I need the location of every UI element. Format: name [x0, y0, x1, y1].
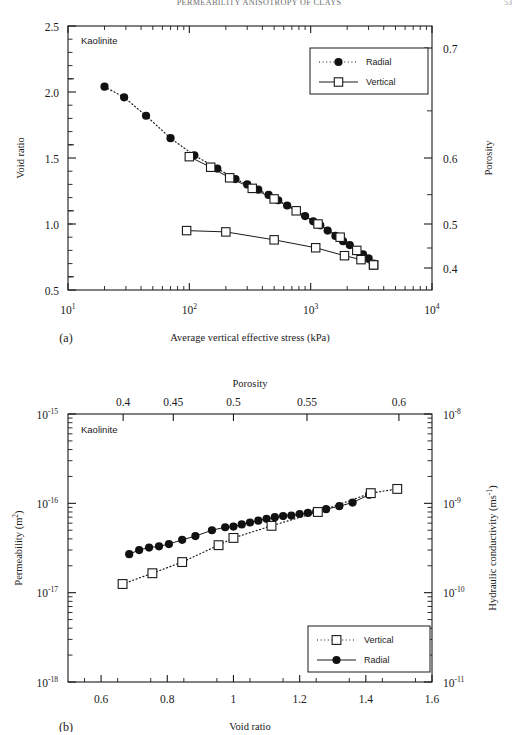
data-point-radial	[142, 112, 150, 120]
data-point-radial	[120, 93, 128, 101]
data-point-vertical	[357, 255, 365, 263]
panel-a-chart: 1011021031042.52.01.51.00.50.70.60.50.4V…	[0, 0, 518, 350]
data-point-radial	[279, 512, 287, 520]
x-tick-label-b: 1.2	[292, 693, 307, 705]
y2-tick-label-a: 0.5	[443, 219, 458, 231]
y2-tick-label-b: 10-10	[443, 585, 465, 599]
data-point-vertical	[311, 244, 319, 252]
y-tick-label-a: 2.5	[45, 21, 60, 33]
x2-tick-label-b: 0.55	[297, 396, 317, 408]
data-point-vertical	[248, 184, 256, 192]
data-point-radial	[271, 513, 279, 521]
x2-tick-label-b: 0.6	[392, 396, 407, 408]
data-point-vertical	[313, 508, 322, 517]
y2-tick-label-b: 10-8	[443, 407, 461, 421]
y2-tick-label-b: 10-9	[443, 496, 461, 510]
x-tick-label-a: 101	[60, 302, 76, 316]
data-point-vertical	[366, 489, 375, 498]
x-tick-label-b: 0.8	[160, 693, 175, 705]
data-point-vertical	[222, 228, 230, 236]
y-tick-label-b: 10-18	[36, 675, 58, 689]
y2-axis-title-a: Porosity	[483, 140, 494, 176]
legend-label-radial: Radial	[366, 57, 392, 67]
series-line-vertical	[189, 157, 373, 265]
panel-label-a: (a)	[59, 331, 72, 345]
data-point-vertical	[178, 558, 187, 567]
panel-b-chart: 0.60.811.21.41.60.40.450.50.550.6Porosit…	[0, 362, 518, 732]
legend-label-vertical: Vertical	[366, 77, 396, 87]
y-tick-label-b: 10-15	[36, 407, 58, 421]
data-point-radial	[135, 546, 143, 554]
x-tick-label-a: 103	[303, 302, 319, 316]
data-point-vertical	[340, 251, 348, 259]
data-point-radial	[246, 518, 254, 526]
y2-tick-label-a: 0.7	[443, 43, 458, 55]
annotation-b: Kaolinite	[81, 424, 117, 435]
y2-tick-label-a: 0.4	[443, 263, 458, 275]
legend-marker-vertical	[332, 636, 341, 645]
x-tick-label-b: 0.6	[94, 693, 109, 705]
data-point-vertical	[393, 485, 402, 494]
y-tick-label-b: 10-17	[36, 585, 58, 599]
data-point-radial	[178, 536, 186, 544]
data-point-radial	[191, 532, 199, 540]
data-point-radial	[125, 550, 133, 558]
x-axis-title-b: Void ratio	[229, 721, 271, 732]
data-point-radial	[165, 540, 173, 548]
data-point-radial	[100, 83, 108, 91]
data-point-vertical	[182, 226, 190, 234]
y-tick-label-a: 2.0	[45, 87, 60, 99]
y-tick-label-a: 1.0	[45, 219, 60, 231]
data-point-vertical	[270, 236, 278, 244]
data-point-vertical	[292, 207, 300, 215]
y-tick-label-a: 1.5	[45, 153, 60, 165]
x-tick-label-b: 1	[231, 693, 237, 705]
data-point-radial	[221, 523, 229, 531]
data-point-vertical	[314, 220, 322, 228]
data-point-vertical	[118, 580, 127, 589]
data-point-vertical	[185, 152, 193, 160]
y-tick-label-a: 0.5	[45, 285, 60, 297]
data-point-radial	[238, 520, 246, 528]
y-axis-title-a: Void ratio	[15, 137, 26, 179]
x-tick-label-a: 102	[182, 302, 198, 316]
data-point-vertical	[206, 163, 214, 171]
data-point-radial	[254, 517, 262, 525]
annotation-a: Kaolinite	[81, 35, 117, 46]
figure-container: PERMEABILITY ANISOTROPY OF CLAYS 53 1011…	[0, 0, 518, 735]
data-point-vertical	[214, 541, 223, 550]
legend-label-vertical: Vertical	[364, 635, 394, 645]
y2-tick-label-a: 0.6	[443, 153, 458, 165]
data-point-radial	[296, 510, 304, 518]
y2-axis-title-b: Hydraulic conductivity (ms-1)	[485, 485, 499, 611]
x-tick-label-b: 1.4	[359, 693, 374, 705]
data-point-vertical	[229, 534, 238, 543]
x2-tick-label-b: 0.45	[163, 396, 183, 408]
data-point-vertical	[225, 174, 233, 182]
x-tick-label-b: 1.6	[425, 693, 440, 705]
data-point-radial	[145, 543, 153, 551]
legend-marker-radial	[334, 58, 342, 66]
data-point-vertical	[369, 261, 377, 269]
x2-tick-label-b: 0.5	[226, 396, 241, 408]
legend-label-radial: Radial	[364, 655, 390, 665]
data-point-radial	[208, 526, 216, 534]
panel-label-b: (b)	[59, 720, 73, 732]
x2-tick-label-b: 0.4	[116, 396, 131, 408]
x2-axis-title-b: Porosity	[232, 378, 268, 389]
data-point-radial	[287, 511, 295, 519]
data-point-vertical	[353, 246, 361, 254]
x-axis-title-a: Average vertical effective stress (kPa)	[170, 332, 330, 344]
data-point-vertical	[267, 521, 276, 530]
data-point-radial	[166, 134, 174, 142]
y2-tick-label-b: 10-11	[443, 675, 465, 689]
data-point-radial	[155, 542, 163, 550]
y-axis-title-b: Permeability (m2)	[11, 510, 25, 586]
legend-marker-vertical	[334, 78, 342, 86]
y-tick-label-b: 10-16	[36, 496, 58, 510]
legend-marker-radial	[332, 656, 340, 664]
x-tick-label-a: 104	[424, 302, 440, 316]
data-point-vertical	[270, 195, 278, 203]
data-point-radial	[229, 522, 237, 530]
data-point-vertical	[336, 233, 344, 241]
